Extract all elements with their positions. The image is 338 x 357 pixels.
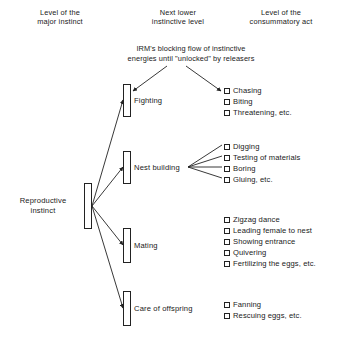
connector-root-to-fighting xyxy=(92,100,123,206)
column-header-next-instinctive-level: Next lower instinctive level xyxy=(122,8,234,27)
act-list-nest-building: Digging Testing of materials Boring Glui… xyxy=(224,141,300,185)
connector-nest-to-act-1 xyxy=(188,156,222,167)
node-label-care-of-offspring: Care of offspring xyxy=(134,304,193,313)
act-item-label: Biting xyxy=(233,97,253,106)
act-item: Showing entrance xyxy=(224,236,316,247)
checkbox-icon xyxy=(224,217,230,223)
checkbox-icon xyxy=(224,110,230,116)
act-item: Quivering xyxy=(224,247,316,258)
node-label-nest-building: Nest building xyxy=(134,163,180,172)
column-header-major-instinct: Level of the major instinct xyxy=(4,8,116,27)
act-item-label: Leading female to nest xyxy=(233,226,312,235)
checkbox-icon xyxy=(224,239,230,245)
act-item-label: Quivering xyxy=(233,248,266,257)
act-item-label: Fertilizing the eggs, etc. xyxy=(233,259,316,268)
checkbox-icon xyxy=(224,88,230,94)
act-item-label: Fanning xyxy=(233,300,261,309)
node-bar-root xyxy=(85,184,92,229)
irm-arrow-to-consummatory-acts xyxy=(186,66,221,91)
act-item: Zigzag dance xyxy=(224,214,316,225)
act-item: Biting xyxy=(224,96,292,107)
act-item: Rescuing eggs, etc. xyxy=(224,310,302,321)
checkbox-icon xyxy=(224,302,230,308)
checkbox-icon xyxy=(224,313,230,319)
connector-root-to-mating xyxy=(92,206,123,245)
irm-note-line: energies until "unlocked" by releasers xyxy=(80,54,302,64)
irm-note-line: IRM's blocking flow of instinctive xyxy=(80,44,302,54)
act-item: Testing of materials xyxy=(224,152,300,163)
header-line: Level of the xyxy=(226,8,336,17)
act-item-label: Showing entrance xyxy=(233,237,295,246)
checkbox-icon xyxy=(224,228,230,234)
checkbox-icon xyxy=(224,144,230,150)
connector-root-to-care-of-offspring xyxy=(92,206,123,308)
connector-nest-to-act-0 xyxy=(188,145,222,167)
node-label-root: Reproductive instinct xyxy=(6,196,80,215)
irm-note: IRM's blocking flow of instinctive energ… xyxy=(80,44,302,63)
act-item: Chasing xyxy=(224,85,292,96)
header-line: consummatory act xyxy=(226,17,336,26)
checkbox-icon xyxy=(224,261,230,267)
checkbox-icon xyxy=(224,177,230,183)
act-item-label: Boring xyxy=(233,164,256,173)
checkbox-icon xyxy=(224,99,230,105)
node-label-mating: Mating xyxy=(134,241,158,250)
node-bar-mating xyxy=(124,229,131,263)
act-item-label: Testing of materials xyxy=(233,153,300,162)
column-header-consummatory-act: Level of the consummatory act xyxy=(226,8,336,27)
connector-nest-to-act-3 xyxy=(188,167,222,178)
node-bar-fighting xyxy=(124,85,131,117)
node-label-fighting: Fighting xyxy=(134,96,162,105)
act-item: Threatening, etc. xyxy=(224,107,292,118)
act-item-label: Threatening, etc. xyxy=(233,108,292,117)
node-bar-nest-building xyxy=(124,152,131,184)
act-item-label: Digging xyxy=(233,142,259,151)
act-item-label: Rescuing eggs, etc. xyxy=(233,311,302,320)
act-item: Gluing, etc. xyxy=(224,174,300,185)
act-item-label: Zigzag dance xyxy=(233,215,280,224)
act-item-label: Gluing, etc. xyxy=(233,175,273,184)
act-list-fighting: Chasing Biting Threatening, etc. xyxy=(224,85,292,118)
header-line: Next lower xyxy=(122,8,234,17)
header-line: major instinct xyxy=(4,17,116,26)
header-line: instinctive level xyxy=(122,17,234,26)
irm-arrow-to-fighting xyxy=(133,66,167,91)
act-item: Digging xyxy=(224,141,300,152)
act-list-care-of-offspring: Fanning Rescuing eggs, etc. xyxy=(224,299,302,321)
connector-root-to-nest-building xyxy=(92,167,123,206)
act-item: Leading female to nest xyxy=(224,225,316,236)
checkbox-icon xyxy=(224,166,230,172)
act-list-mating: Zigzag dance Leading female to nest Show… xyxy=(224,214,316,269)
act-item: Boring xyxy=(224,163,300,174)
node-label-line: Reproductive xyxy=(6,196,80,206)
checkbox-icon xyxy=(224,155,230,161)
node-bar-care-of-offspring xyxy=(124,292,131,326)
act-item: Fertilizing the eggs, etc. xyxy=(224,258,316,269)
act-item: Fanning xyxy=(224,299,302,310)
node-label-line: instinct xyxy=(6,206,80,216)
header-line: Level of the xyxy=(4,8,116,17)
act-item-label: Chasing xyxy=(233,86,262,95)
checkbox-icon xyxy=(224,250,230,256)
